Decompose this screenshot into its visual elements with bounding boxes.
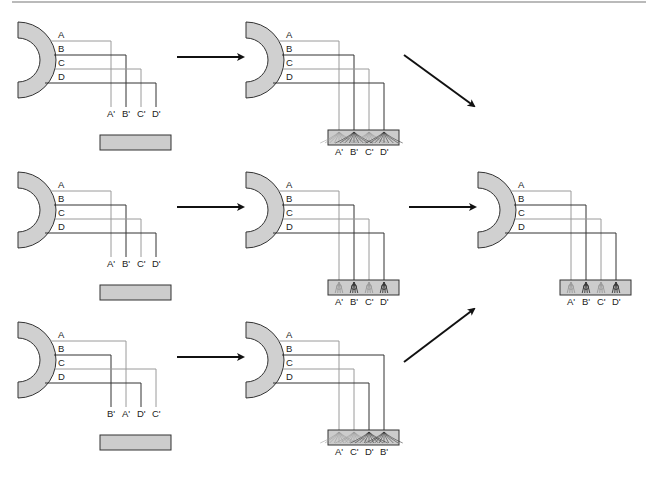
row1-to-final-arrow (404, 55, 474, 106)
source-arc (18, 322, 56, 398)
source-arc (18, 172, 56, 248)
target-label: B' (122, 108, 130, 119)
source-label-a: A (518, 179, 525, 190)
target-label: B' (350, 296, 358, 307)
target-label: D' (137, 408, 146, 419)
source-label-c: C (58, 207, 65, 218)
axon-c (283, 219, 369, 288)
panel-row2-innervated: ABCDA'B'C'D' (246, 172, 399, 307)
panels-layer: ABCDA'B'C'D'ABCDA'B'C'D'ABCDA'B'C'D'ABCD… (18, 22, 631, 457)
target-label: D' (152, 258, 161, 269)
axon-c (55, 69, 141, 107)
source-label-b: B (286, 43, 292, 54)
target-label: C' (137, 108, 146, 119)
source-label-c: C (286, 357, 293, 368)
source-label-a: A (286, 29, 293, 40)
target-label: A' (107, 108, 115, 119)
source-arc (246, 322, 284, 398)
source-label-c: C (518, 207, 525, 218)
target-label: A' (335, 146, 343, 157)
source-label-b: B (286, 343, 292, 354)
axon-a (278, 41, 339, 138)
source-label-d: D (286, 221, 293, 232)
arrows-layer (177, 55, 475, 362)
axon-c (515, 219, 601, 288)
panel-row3-initial: ABCDB'A'D'C' (18, 322, 171, 450)
target-label: A' (567, 296, 575, 307)
target-box (100, 285, 171, 300)
axon-c (283, 369, 354, 438)
source-label-b: B (58, 343, 64, 354)
target-label: A' (335, 296, 343, 307)
target-label: B' (350, 146, 358, 157)
source-arc (478, 172, 516, 248)
source-label-a: A (58, 329, 65, 340)
target-label: D' (152, 108, 161, 119)
target-label: B' (582, 296, 590, 307)
source-label-b: B (58, 193, 64, 204)
panel-row2-initial: ABCDA'B'C'D' (18, 172, 171, 300)
source-label-b: B (518, 193, 524, 204)
target-label: A' (335, 446, 343, 457)
axon-d (45, 383, 141, 407)
axon-a (278, 191, 339, 288)
source-label-d: D (58, 221, 65, 232)
axon-c (55, 219, 141, 257)
source-label-d: D (518, 221, 525, 232)
panel-row3-innervated: ABCDA'C'D'B' (246, 322, 403, 457)
target-box (100, 435, 171, 450)
source-label-d: D (58, 371, 65, 382)
source-label-d: D (58, 71, 65, 82)
source-label-a: A (286, 179, 293, 190)
source-label-a: A (58, 179, 65, 190)
target-label: B' (122, 258, 130, 269)
target-label: C' (152, 408, 161, 419)
source-label-a: A (58, 29, 65, 40)
axon-d (45, 233, 156, 257)
source-label-c: C (286, 57, 293, 68)
target-label: C' (137, 258, 146, 269)
target-label: D' (612, 296, 621, 307)
axon-a (510, 191, 571, 288)
source-label-b: B (286, 193, 292, 204)
axon-a (278, 341, 339, 438)
source-arc (18, 22, 56, 98)
topographic-mapping-diagram: ABCDA'B'C'D'ABCDA'B'C'D'ABCDA'B'C'D'ABCD… (0, 0, 646, 487)
target-box (100, 135, 171, 150)
target-label: C' (365, 146, 374, 157)
target-label: A' (107, 258, 115, 269)
source-label-c: C (286, 207, 293, 218)
target-label: D' (380, 146, 389, 157)
panel-row1-initial: ABCDA'B'C'D' (18, 22, 171, 150)
target-label: D' (365, 446, 374, 457)
row3-to-final-arrow (404, 309, 474, 362)
target-label: C' (597, 296, 606, 307)
target-label: C' (365, 296, 374, 307)
source-arc (246, 172, 284, 248)
target-label: C' (350, 446, 359, 457)
target-label: B' (107, 408, 115, 419)
target-label: D' (380, 296, 389, 307)
panel-row1-innervated: ABCDA'B'C'D' (246, 22, 403, 157)
source-label-c: C (58, 357, 65, 368)
axon-d (45, 83, 156, 107)
panel-final-refined: ABCDA'B'C'D' (478, 172, 631, 307)
source-label-d: D (286, 71, 293, 82)
axon-c (283, 69, 369, 138)
source-arc (246, 22, 284, 98)
source-label-c: C (58, 57, 65, 68)
target-label: A' (122, 408, 130, 419)
source-label-b: B (58, 43, 64, 54)
source-label-a: A (286, 329, 293, 340)
source-label-d: D (286, 371, 293, 382)
target-label: B' (380, 446, 388, 457)
